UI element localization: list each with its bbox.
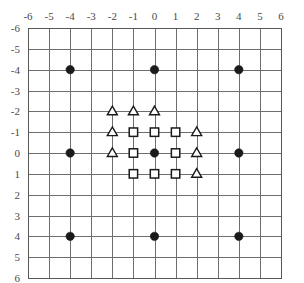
coordinate-grid-figure: -6-5-4-3-2-10123456 -6-5-4-3-2-10123456 [0,0,304,283]
marker-open-square [150,128,158,136]
marker-filled-circle [150,232,158,240]
marker-filled-circle [66,232,74,240]
marker-open-square [150,170,158,178]
marker-filled-circle [150,65,158,73]
marker-filled-circle [235,149,243,157]
marker-open-triangle [192,127,202,136]
marker-filled-circle [235,65,243,73]
marker-filled-circle [66,65,74,73]
marker-filled-circle [150,149,158,157]
plot-area [0,0,304,283]
marker-open-triangle [107,148,117,157]
marker-open-triangle [107,127,117,136]
marker-open-square [129,149,137,157]
marker-open-square [171,149,179,157]
marker-open-triangle [128,106,138,115]
marker-open-triangle [192,148,202,157]
marker-open-square [171,128,179,136]
marker-open-square [171,170,179,178]
marker-filled-circle [66,149,74,157]
marker-open-triangle [150,106,160,115]
marker-open-triangle [192,169,202,178]
marker-open-square [129,128,137,136]
marker-filled-circle [235,232,243,240]
marker-open-square [129,170,137,178]
marker-open-triangle [107,106,117,115]
